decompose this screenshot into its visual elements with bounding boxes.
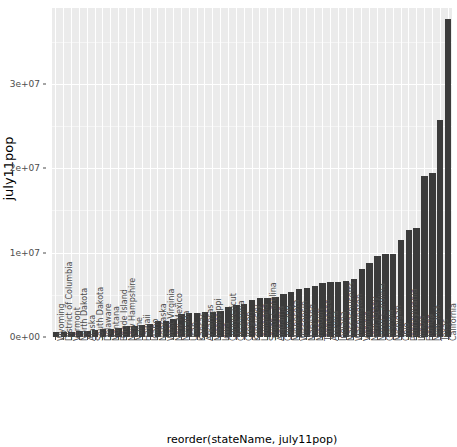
gridline-vertical (252, 8, 253, 337)
y-axis-tick-mark (43, 252, 46, 253)
bar-chart: july11pop 0e+001e+072e+073e+07 WyomingDi… (0, 0, 457, 447)
gridline-vertical (236, 8, 237, 337)
gridline-vertical (204, 8, 205, 337)
plot-panel (52, 8, 452, 337)
x-axis-tick-labels: WyomingDistrict of ColumbiaVermontNorth … (52, 341, 452, 423)
gridline-vertical (299, 8, 300, 337)
bar[interactable] (445, 19, 451, 337)
gridline-vertical (291, 8, 292, 337)
gridline-vertical (142, 8, 143, 337)
y-axis-tick-label: 1e+07 (10, 248, 40, 258)
y-axis-tick-label: 3e+07 (10, 79, 40, 89)
gridline-vertical (150, 8, 151, 337)
y-axis-tick-label: 0e+00 (10, 332, 40, 342)
y-axis-tick-mark (43, 337, 46, 338)
x-axis-title: reorder(stateName, july11pop) (52, 433, 452, 446)
gridline-vertical (220, 8, 221, 337)
gridline-vertical (165, 8, 166, 337)
y-axis-tick-labels: 0e+001e+072e+073e+07 (16, 0, 46, 347)
gridline-vertical (189, 8, 190, 337)
gridline-vertical (197, 8, 198, 337)
gridline-vertical (283, 8, 284, 337)
gridline-vertical (110, 8, 111, 337)
gridline-vertical (118, 8, 119, 337)
y-axis-tick-mark (43, 168, 46, 169)
gridline-vertical (244, 8, 245, 337)
gridline-vertical (212, 8, 213, 337)
gridline-vertical (259, 8, 260, 337)
gridline-vertical (228, 8, 229, 337)
gridline-vertical (55, 8, 56, 337)
gridline-vertical (157, 8, 158, 337)
y-axis-tick-label: 2e+07 (10, 163, 40, 173)
y-axis-tick-mark (43, 83, 46, 84)
gridline-vertical (126, 8, 127, 337)
gridline-vertical (181, 8, 182, 337)
x-axis-tick-label-text: California (450, 303, 457, 341)
